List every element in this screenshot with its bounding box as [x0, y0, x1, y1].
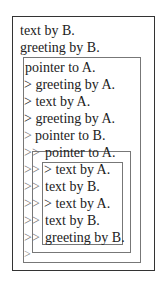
box3-line-3: > text by A.	[44, 196, 110, 211]
box3-line-3-prefix: >>	[24, 196, 40, 211]
box1-line-2: > text by A.	[24, 94, 90, 109]
box3-line-2: text by B.	[45, 179, 100, 194]
box3-line-5-prefix: >>	[24, 230, 40, 245]
box3-line-4-prefix: >>	[24, 213, 40, 228]
trailing-prefix: >	[24, 247, 31, 262]
box3-line-4: text by B.	[45, 213, 100, 228]
box3-line-1: > text by A.	[44, 162, 110, 177]
box3-line-1-prefix: >>	[24, 162, 40, 177]
box2-title: pointer to B.	[35, 128, 105, 143]
box1-line-3: > greeting by A.	[24, 111, 115, 126]
box3-title: pointer to A.	[45, 145, 115, 160]
box3-prefix: >>	[24, 145, 40, 160]
box3-line-2-prefix: >>	[24, 179, 40, 194]
box1-line-1: > greeting by A.	[24, 77, 115, 92]
box2-prefix: >	[24, 128, 32, 143]
box1-title: pointer to A.	[25, 60, 95, 75]
box3-line-5: greeting by B.	[45, 230, 125, 245]
outer-line-2: greeting by B.	[20, 40, 100, 55]
outer-line-1: text by B.	[20, 23, 75, 38]
